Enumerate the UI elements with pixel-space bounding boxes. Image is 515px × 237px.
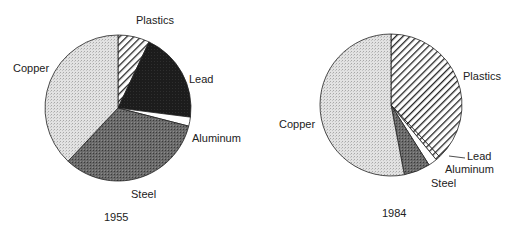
pie-chart-1984 <box>320 34 462 176</box>
label-copper-1984: Copper <box>279 118 315 130</box>
title-1984: 1984 <box>382 207 406 219</box>
label-steel-1984: Steel <box>431 177 456 189</box>
lead-leader-line-1984 <box>449 156 465 158</box>
pie-chart-1955 <box>45 35 191 181</box>
label-plastics-1984: Plastics <box>463 70 501 82</box>
label-steel-1955: Steel <box>131 188 156 200</box>
label-aluminum-1955: Aluminum <box>192 132 241 144</box>
label-plastics-1955: Plastics <box>136 14 174 26</box>
title-1955: 1955 <box>104 211 128 223</box>
label-aluminum-1984: Aluminum <box>445 163 494 175</box>
label-lead-1984: Lead <box>467 150 491 162</box>
pie-charts <box>0 0 515 237</box>
label-copper-1955: Copper <box>13 62 49 74</box>
label-lead-1955: Lead <box>189 73 213 85</box>
